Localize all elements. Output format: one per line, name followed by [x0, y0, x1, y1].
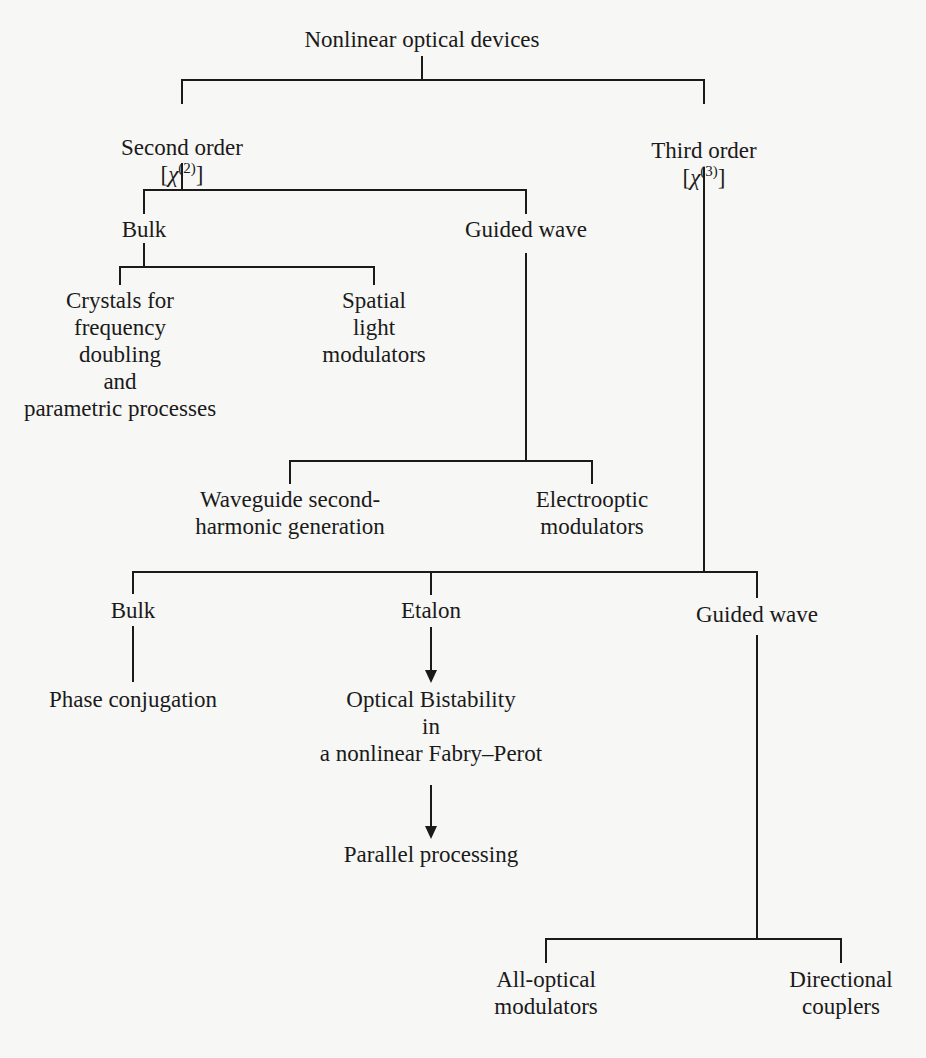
node-waveguide-shg: Waveguide second- harmonic generation: [195, 486, 385, 540]
node-root: Nonlinear optical devices: [304, 26, 539, 53]
node-etalon: Etalon: [401, 597, 461, 624]
node-directional-couplers: Directional couplers: [789, 966, 892, 1020]
node-optical-bistability: Optical Bistability in a nonlinear Fabry…: [320, 686, 542, 767]
node-third-order: Third order [χ(3)]: [651, 110, 756, 218]
nonlinear-optical-devices-tree: Nonlinear optical devices Second order […: [0, 0, 926, 1058]
chi2-symbol: [χ(2)]: [121, 161, 243, 188]
node-second-order-guided-wave: Guided wave: [465, 216, 587, 243]
node-second-order-label: Second order: [121, 135, 243, 160]
node-all-optical-modulators: All-optical modulators: [494, 966, 598, 1020]
chi3-symbol: [χ(3)]: [651, 164, 756, 191]
node-third-order-label: Third order: [651, 138, 756, 163]
node-parallel-processing: Parallel processing: [344, 841, 518, 868]
node-electrooptic-modulators: Electrooptic modulators: [536, 486, 648, 540]
node-phase-conjugation: Phase conjugation: [49, 686, 217, 713]
node-third-order-bulk: Bulk: [111, 597, 156, 624]
node-second-order: Second order [χ(2)]: [121, 107, 243, 215]
node-crystals: Crystals for frequency doubling and para…: [24, 287, 216, 422]
node-second-order-bulk: Bulk: [122, 216, 167, 243]
node-third-order-guided-wave: Guided wave: [696, 601, 818, 628]
node-spatial-light-modulators: Spatial light modulators: [322, 287, 426, 368]
